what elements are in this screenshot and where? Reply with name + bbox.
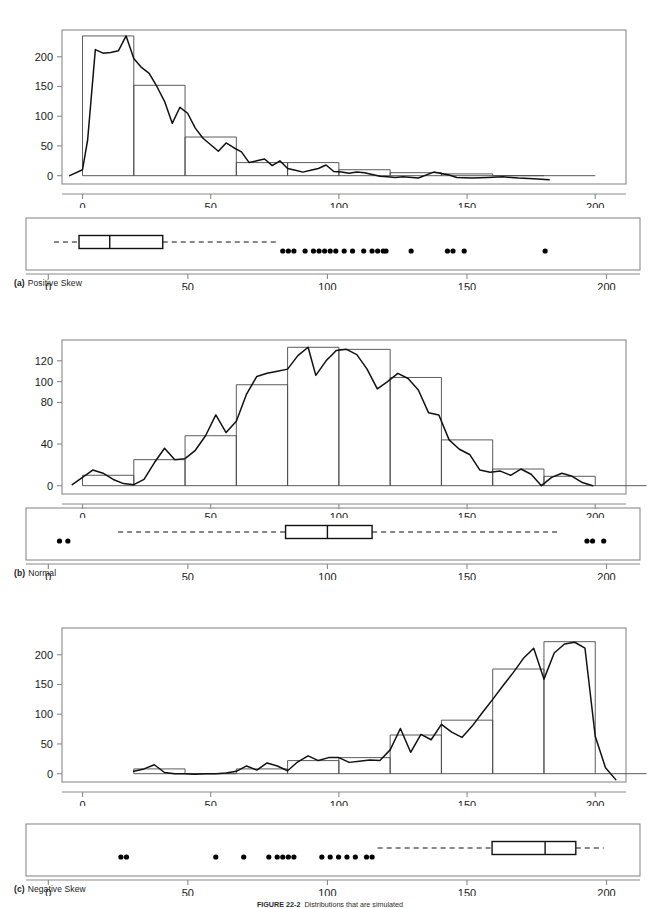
- figure-caption-text: Distributions that are simulated: [300, 900, 403, 908]
- x-tick-label: 100: [330, 799, 348, 806]
- plot-frame: [62, 340, 626, 494]
- plot-frame: [26, 824, 640, 876]
- histogram-bar: [134, 85, 185, 175]
- y-tick-label: 100: [35, 110, 53, 122]
- outlier-point: [462, 248, 467, 253]
- x-tick-label: 200: [597, 887, 615, 896]
- histogram-bar: [185, 436, 236, 486]
- outlier-point: [375, 248, 380, 253]
- outlier-point: [291, 854, 296, 859]
- histogram-bar: [339, 349, 390, 485]
- y-tick-label: 0: [47, 170, 53, 182]
- outlier-point: [342, 248, 347, 253]
- x-tick-label: 50: [182, 887, 194, 896]
- histogram-bars: [83, 36, 544, 176]
- outlier-point: [286, 854, 291, 859]
- x-tick-label: 50: [182, 571, 194, 580]
- y-tick-label: 120: [35, 355, 53, 367]
- outlier-point: [450, 248, 455, 253]
- panel-tag: (c): [14, 884, 25, 894]
- y-tick-label: 100: [35, 376, 53, 388]
- x-tick-label: 100: [318, 281, 336, 290]
- y-tick-label: 50: [41, 738, 53, 750]
- outlier-point: [344, 854, 349, 859]
- frequency-polygon: [72, 347, 592, 485]
- outlier-point: [584, 538, 589, 543]
- y-axis: 050100150200: [35, 51, 62, 182]
- outlier-point: [333, 248, 338, 253]
- figure-caption-number: FIGURE 22-2: [257, 900, 301, 908]
- outlier-point: [118, 854, 123, 859]
- panel-title: Negative Skew: [25, 884, 86, 894]
- x-axis: 050100150200: [62, 792, 626, 806]
- x-tick-label: 200: [586, 201, 604, 208]
- boxplot-box-b: 050100150200: [0, 502, 660, 580]
- outlier-point: [590, 538, 595, 543]
- boxplot-box-c: 050100150200: [0, 818, 660, 896]
- histogram-bar: [236, 163, 287, 176]
- x-tick-label: 200: [597, 571, 615, 580]
- panel-a-label: (a)Positive Skew: [14, 278, 82, 288]
- x-tick-label: 0: [79, 201, 85, 208]
- boxplot-box-a: 050100150200: [0, 212, 660, 290]
- histogram-bar: [185, 137, 236, 176]
- outlier-point: [369, 854, 374, 859]
- y-tick-label: 0: [47, 480, 53, 492]
- frequency-polygon: [70, 36, 549, 180]
- histogram-bar: [441, 440, 492, 486]
- outlier-point: [213, 854, 218, 859]
- y-axis: 050100150200: [35, 649, 62, 780]
- panel-a-boxplot: 050100150200: [0, 212, 660, 290]
- outlier-point: [409, 248, 414, 253]
- outlier-point: [369, 248, 374, 253]
- x-axis: 050100150200: [26, 274, 640, 290]
- histogram-bar: [390, 377, 441, 485]
- plot-frame: [26, 508, 640, 560]
- y-tick-label: 50: [41, 140, 53, 152]
- outlier-point: [322, 248, 327, 253]
- histogram-bar: [390, 735, 441, 774]
- y-tick-label: 150: [35, 80, 53, 92]
- outlier-point: [383, 248, 388, 253]
- iqr-box: [286, 526, 373, 539]
- histogram-hist-c: 050100150200050100150200: [0, 606, 660, 806]
- x-tick-label: 50: [205, 201, 217, 208]
- outlier-point: [241, 854, 246, 859]
- y-tick-label: 200: [35, 51, 53, 63]
- x-tick-label: 200: [597, 281, 615, 290]
- outlier-point: [65, 538, 70, 543]
- x-tick-label: 150: [458, 571, 476, 580]
- x-tick-label: 100: [318, 887, 336, 896]
- x-axis: 050100150200: [62, 194, 626, 208]
- outliers: [280, 248, 548, 253]
- panel-c-boxplot: 050100150200: [0, 818, 660, 896]
- panel-a-histogram: 050100150200050100150200: [0, 8, 660, 208]
- outlier-point: [364, 854, 369, 859]
- figure-caption: FIGURE 22-2Distributions that are simula…: [0, 900, 660, 908]
- outlier-point: [124, 854, 129, 859]
- histogram-hist-b: 04080100120050100150200: [0, 318, 660, 518]
- outlier-point: [445, 248, 450, 253]
- histogram-bars: [83, 347, 596, 485]
- y-tick-label: 0: [47, 768, 53, 780]
- histogram-bars: [134, 642, 595, 774]
- y-tick-label: 40: [41, 438, 53, 450]
- plot-frame: [26, 218, 640, 270]
- x-tick-label: 150: [458, 281, 476, 290]
- x-tick-label: 100: [330, 201, 348, 208]
- x-tick-label: 50: [205, 799, 217, 806]
- outlier-point: [353, 854, 358, 859]
- panel-b-label: (b)Normal: [14, 568, 56, 578]
- outlier-point: [275, 854, 280, 859]
- x-axis: 050100150200: [26, 564, 640, 580]
- x-tick-label: 0: [79, 799, 85, 806]
- panel-c-histogram: 050100150200050100150200: [0, 606, 660, 806]
- x-tick-label: 150: [458, 201, 476, 208]
- outlier-point: [601, 538, 606, 543]
- box-whisker-group: [54, 236, 277, 249]
- x-tick-label: 150: [458, 887, 476, 896]
- panel-b-histogram: 04080100120050100150200: [0, 318, 660, 518]
- panel-title: Normal: [25, 568, 56, 578]
- panel-tag: (a): [14, 278, 25, 288]
- outlier-point: [336, 854, 341, 859]
